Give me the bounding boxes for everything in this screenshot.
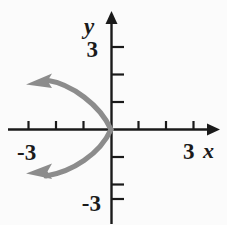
y-axis-negative-tick-label: -3 xyxy=(82,191,101,216)
graph-figure: y 3 -3 -3 3 x xyxy=(0,0,227,225)
x-axis-negative-tick-label: -3 xyxy=(17,140,36,165)
figure-background xyxy=(0,0,227,225)
coordinate-plane-svg: y 3 -3 -3 3 x xyxy=(0,0,227,225)
x-axis-positive-tick-label: 3 xyxy=(183,139,195,164)
y-axis-positive-tick-label: 3 xyxy=(87,37,99,62)
y-axis-name-label: y xyxy=(81,14,95,39)
x-axis-name-label: x xyxy=(202,138,214,163)
